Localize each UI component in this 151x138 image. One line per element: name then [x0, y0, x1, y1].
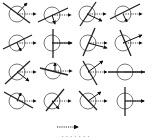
solid-arrow-icon — [123, 14, 127, 22]
diagram-grid — [3, 2, 145, 116]
axis-line — [83, 28, 95, 56]
diagram-cell — [4, 92, 36, 109]
axis-line — [46, 89, 64, 111]
diagram-cell — [3, 35, 36, 51]
diagram-cell — [80, 61, 107, 85]
diagram-cell — [38, 7, 71, 24]
axis-line — [3, 35, 32, 49]
diagram-cell — [79, 91, 107, 110]
diagram-cell — [44, 89, 71, 111]
diagram-cell — [110, 4, 142, 22]
diagram-cell — [79, 2, 106, 26]
diagram-cell — [40, 63, 72, 79]
solid-arrow-icon — [88, 43, 107, 48]
solid-arrow-icon — [17, 3, 27, 14]
diagram-cell — [115, 30, 142, 56]
diagram-cell — [80, 28, 107, 56]
axis-line — [120, 30, 131, 56]
diagram-cell — [3, 3, 36, 23]
diagram-cell — [108, 64, 145, 80]
diagram-cell — [117, 87, 144, 116]
diagram-cell — [44, 29, 72, 58]
axis-line — [4, 92, 33, 108]
solid-arrow-icon — [17, 43, 21, 51]
legend-label: · · · · · · · — [0, 133, 151, 138]
diagram-cell — [5, 61, 36, 84]
solid-arrow-icon — [123, 35, 142, 43]
axis-line — [38, 8, 68, 22]
diagram-figure — [0, 0, 151, 138]
